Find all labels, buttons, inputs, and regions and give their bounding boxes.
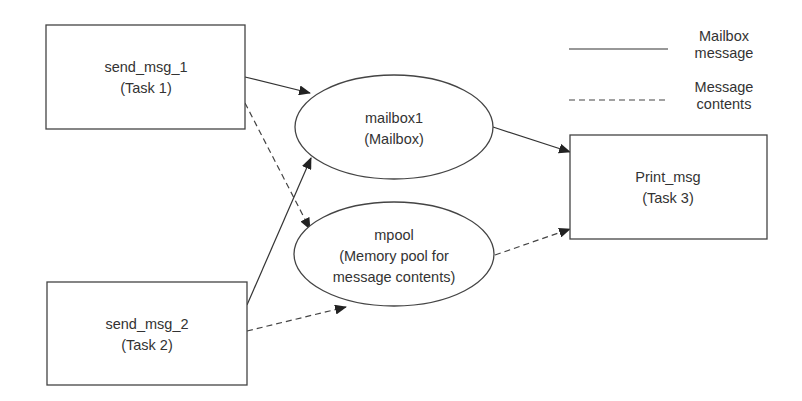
- legend: Mailbox message Message contents: [569, 28, 753, 112]
- task-box: [46, 25, 245, 129]
- node-subtitle: (Task 2): [121, 337, 173, 353]
- legend-dashed-label-line1: Message: [695, 79, 754, 95]
- node-title: mpool: [374, 227, 414, 243]
- node-print-msg: Print_msg (Task 3): [570, 135, 767, 239]
- node-send-msg-2: send_msg_2 (Task 2): [47, 282, 247, 385]
- node-title: send_msg_1: [104, 59, 187, 75]
- node-send-msg-1: send_msg_1 (Task 1): [46, 25, 245, 129]
- node-mailbox1: mailbox1 (Mailbox): [295, 75, 493, 179]
- node-subtitle: (Memory pool for: [339, 248, 449, 264]
- edge-send-msg-2-to-mpool: [247, 307, 346, 331]
- node-subtitle-2: message contents): [333, 269, 456, 285]
- edge-send-msg-2-to-mailbox1: [247, 158, 311, 305]
- node-title: Print_msg: [635, 169, 700, 185]
- legend-solid-label-line2: message: [695, 45, 754, 61]
- node-title: mailbox1: [365, 110, 423, 126]
- message-flow-diagram: Mailbox message Message contents send_ms…: [0, 0, 802, 401]
- node-mpool: mpool (Memory pool for message contents): [294, 202, 494, 306]
- edge-send-msg-1-to-mailbox1: [245, 77, 310, 93]
- mailbox-ellipse: [295, 75, 493, 179]
- node-title: send_msg_2: [105, 316, 188, 332]
- legend-solid-label-line1: Mailbox: [699, 28, 750, 44]
- legend-dashed-label-line2: contents: [697, 96, 752, 112]
- node-subtitle: (Task 1): [120, 80, 172, 96]
- node-subtitle: (Mailbox): [364, 131, 424, 147]
- node-subtitle: (Task 3): [642, 190, 694, 206]
- edge-mailbox1-to-print-msg: [493, 127, 570, 152]
- edge-mpool-to-print-msg: [495, 229, 570, 255]
- task-box: [570, 135, 767, 239]
- task-box: [47, 282, 247, 385]
